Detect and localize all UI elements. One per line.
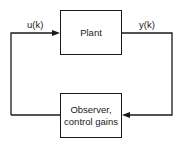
arrow-into-plant-icon (52, 30, 60, 36)
arrow-into-observer-icon (122, 112, 130, 118)
output-signal-line (122, 33, 172, 115)
observer-label-line1: Observer, (64, 104, 118, 116)
plant-label: Plant (80, 27, 102, 39)
input-signal-label: u(k) (27, 20, 43, 30)
observer-block: Observer, control gains (60, 93, 122, 138)
output-signal-label: y(k) (139, 20, 155, 30)
input-signal-line (11, 33, 58, 115)
observer-label-line2: control gains (64, 116, 118, 128)
plant-block: Plant (60, 10, 122, 55)
